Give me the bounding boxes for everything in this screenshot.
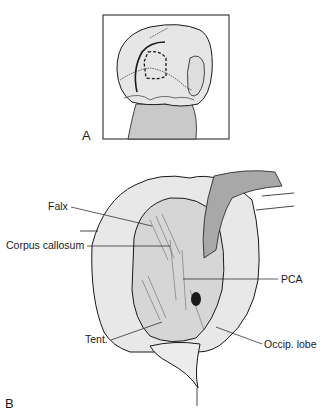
neck	[128, 104, 197, 139]
stay-suture-right-1	[262, 193, 294, 196]
label-falx: Falx	[48, 201, 68, 212]
label-pca: PCA	[281, 274, 303, 285]
panel-label-b: B	[5, 397, 14, 410]
bottom-flap	[150, 342, 200, 388]
vessel-cross-section	[191, 292, 201, 306]
stay-suture-right-2	[256, 206, 294, 210]
label-corpus-callosum: Corpus callosum	[6, 240, 84, 251]
label-tent: Tent.	[85, 334, 108, 345]
label-occip-lobe: Occip. lobe	[264, 339, 317, 350]
panel-label-a: A	[82, 129, 91, 142]
